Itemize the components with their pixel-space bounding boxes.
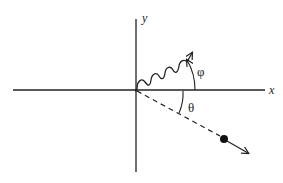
y-axis-label: y: [141, 11, 148, 25]
origin-marker: [135, 89, 138, 92]
scattering-diagram: x y φ θ: [0, 0, 283, 183]
theta-label: θ: [188, 100, 194, 115]
x-axis-label: x: [268, 83, 275, 97]
phi-label: φ: [197, 64, 205, 79]
phi-angle-arc: [187, 60, 195, 90]
particle-velocity-arrow: [227, 141, 248, 153]
particle-path-dashed: [137, 91, 220, 136]
theta-angle-arc: [179, 91, 183, 113]
photon-wave: [137, 53, 192, 89]
particle-dot: [220, 135, 228, 143]
